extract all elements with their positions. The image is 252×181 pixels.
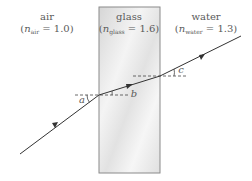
air-index: (nair = 1.0) bbox=[12, 23, 82, 38]
angle-label-b: b bbox=[129, 88, 139, 100]
angle-label-a: a bbox=[77, 94, 87, 106]
air-label: air (nair = 1.0) bbox=[12, 11, 82, 38]
glass-index: (nglass = 1.6) bbox=[94, 23, 164, 38]
ray-in-air bbox=[20, 95, 99, 154]
glass-name: glass bbox=[94, 11, 164, 23]
angle-arc-a bbox=[87, 95, 90, 103]
air-name: air bbox=[12, 11, 82, 23]
arrow-icon-air bbox=[52, 122, 58, 128]
water-index: (nwater = 1.3) bbox=[167, 23, 245, 38]
angle-label-c: c bbox=[176, 64, 186, 76]
glass-label: glass (nglass = 1.6) bbox=[94, 11, 164, 38]
arrow-icon-water bbox=[199, 54, 205, 60]
water-label: water (nwater = 1.3) bbox=[167, 11, 245, 38]
water-name: water bbox=[167, 11, 245, 23]
